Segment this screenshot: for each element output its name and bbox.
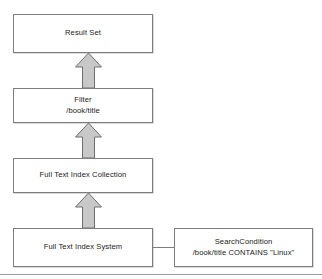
node-full-text-index-collection[interactable]: Full Text Index Collection <box>13 158 153 193</box>
node-full-text-index-system-label: Full Text Index System <box>44 242 122 253</box>
flow-diagram: Result Set Filter /book/title Full Text … <box>0 0 322 279</box>
node-full-text-index-system[interactable]: Full Text Index System <box>13 228 153 267</box>
node-filter-xpath: /book/title <box>66 106 100 117</box>
node-result-set[interactable]: Result Set <box>13 14 153 53</box>
node-search-condition[interactable]: SearchCondition /book/title CONTAINS "Li… <box>174 228 313 267</box>
node-filter-title: Filter <box>74 95 91 106</box>
node-search-condition-expression: /book/title CONTAINS "Linux" <box>193 248 295 259</box>
connector-index-system-to-search-condition <box>153 247 174 248</box>
arrow-index-system-to-collection-icon <box>74 192 103 229</box>
node-full-text-index-collection-label: Full Text Index Collection <box>40 170 127 181</box>
bottom-divider <box>0 274 322 275</box>
arrow-filter-to-result-set-icon <box>74 52 103 89</box>
node-result-set-label: Result Set <box>65 28 101 39</box>
arrow-collection-to-filter-icon <box>74 122 103 159</box>
node-search-condition-title: SearchCondition <box>215 237 273 248</box>
node-filter[interactable]: Filter /book/title <box>13 88 153 123</box>
